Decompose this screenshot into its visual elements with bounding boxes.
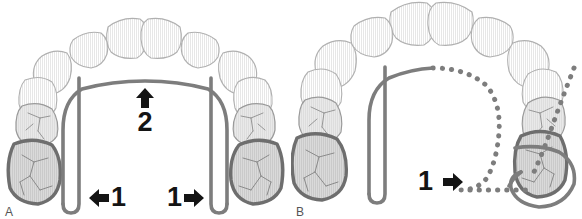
force-number: 1	[167, 184, 182, 211]
tooth-lateral-incisor-right	[471, 17, 513, 57]
force-marker-1-left: 1	[88, 184, 126, 211]
tooth-lateral-incisor-left	[70, 32, 108, 68]
tooth-molar-first-right	[515, 132, 567, 198]
force-marker-2-up: 2	[133, 87, 157, 136]
force-marker-1-right: 1	[167, 184, 205, 211]
first-molar-group	[8, 140, 283, 204]
tooth-molar-first-right	[231, 140, 283, 204]
arrow-up-icon	[133, 87, 157, 109]
arrow-right-icon	[442, 170, 464, 194]
arrow-left-icon	[88, 186, 110, 210]
force-number: 1	[418, 168, 433, 195]
figure-root: 1 1 2 A	[0, 0, 582, 219]
panel-label-a: A	[5, 206, 14, 218]
panel-label-b: B	[296, 206, 305, 218]
tooth-central-incisor-right	[141, 18, 182, 58]
panel-a: 1 1 2 A	[0, 0, 291, 219]
arrow-right-icon	[183, 186, 205, 210]
tooth-central-incisor-right	[428, 2, 473, 45]
anterior-teeth-group	[301, 2, 563, 116]
force-number: 1	[111, 184, 126, 211]
panel-b: 1 B	[291, 0, 582, 219]
force-marker-1-right: 1	[418, 168, 464, 195]
force-number: 2	[137, 109, 152, 136]
tooth-lateral-incisor-left	[351, 17, 393, 57]
tooth-molar-first-left	[8, 140, 60, 204]
tooth-molar-first-left	[292, 134, 346, 200]
tooth-lateral-incisor-right	[181, 32, 219, 68]
